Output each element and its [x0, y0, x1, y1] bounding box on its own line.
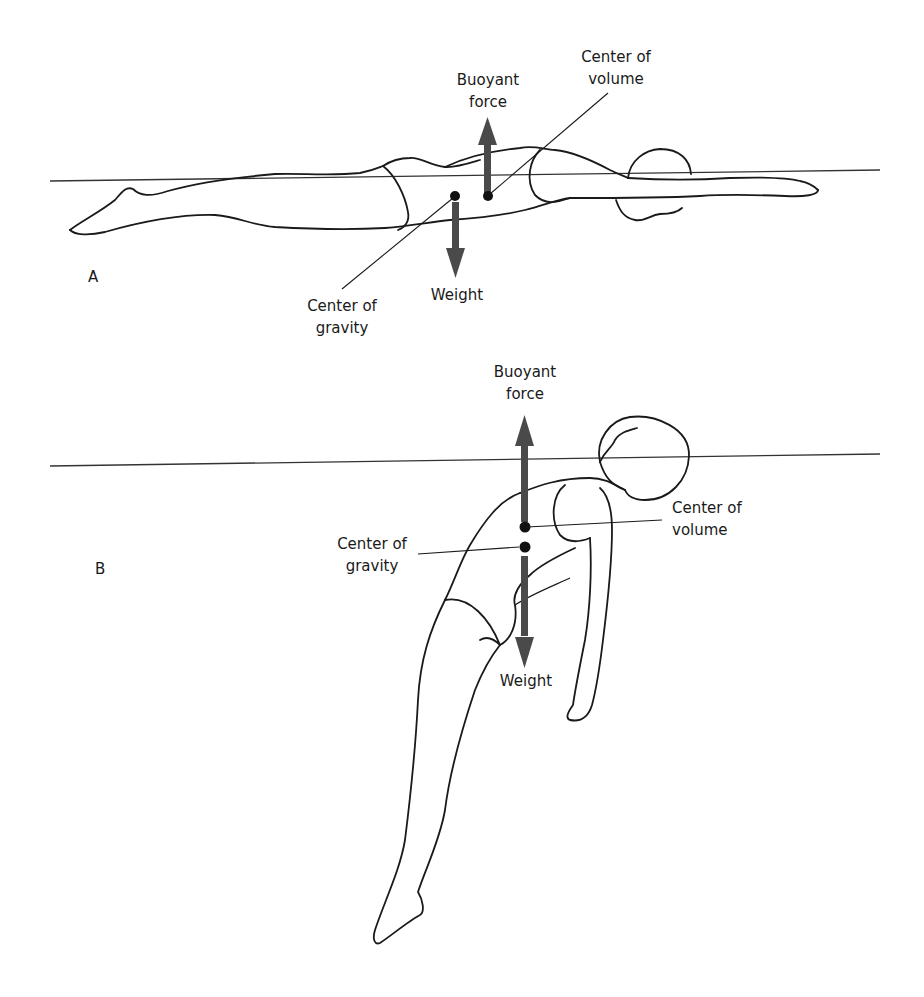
buoyant-force-label-b: Buoyant force [477, 361, 573, 405]
buoyant-force-label-b-line2: force [477, 383, 573, 405]
center-of-gravity-label-a-line1: Center of [290, 295, 394, 317]
weight-arrow-a [446, 202, 465, 278]
center-of-gravity-label-b: Center of gravity [320, 533, 424, 577]
center-of-gravity-label-b-line2: gravity [320, 555, 424, 577]
weight-label-a: Weight [420, 284, 494, 306]
center-of-volume-label-b: Center of volume [672, 497, 782, 541]
panel-a [50, 93, 880, 289]
water-line-b [50, 454, 880, 466]
center-of-gravity-label-a: Center of gravity [290, 295, 394, 339]
buoyant-force-arrow-a [478, 117, 497, 197]
weight-label-b: Weight [489, 670, 563, 692]
buoyant-force-label-a: Buoyant force [440, 69, 536, 113]
buoyant-force-label-b-line1: Buoyant [477, 361, 573, 383]
panel-b [50, 415, 880, 943]
center-of-gravity-label-a-line2: gravity [290, 317, 394, 339]
center-of-gravity-label-b-line1: Center of [320, 533, 424, 555]
center-of-volume-label-a: Center of volume [561, 46, 671, 90]
buoyant-force-arrow-b [515, 415, 534, 522]
center-of-volume-label-b-line2: volume [672, 519, 782, 541]
center-of-gravity-leader-a [342, 198, 453, 289]
center-of-volume-label-a-line1: Center of [561, 46, 671, 68]
swimmer-a-figure [70, 147, 818, 234]
center-of-volume-label-b-line1: Center of [672, 497, 782, 519]
water-line-a [50, 170, 880, 181]
buoyant-force-label-a-line2: force [440, 91, 536, 113]
panel-a-letter: A [88, 268, 98, 286]
panel-b-letter: B [95, 560, 105, 578]
center-of-gravity-dot-b [520, 542, 531, 553]
center-of-volume-leader-b [527, 520, 662, 527]
buoyancy-diagram [0, 0, 924, 997]
buoyant-force-label-a-line1: Buoyant [440, 69, 536, 91]
center-of-volume-label-a-line2: volume [561, 68, 671, 90]
